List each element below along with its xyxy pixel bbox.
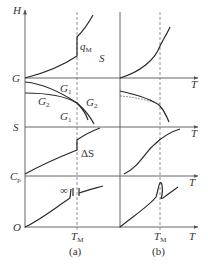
tm-label-b: TM (154, 230, 167, 244)
phase-transition-diagram: H G S Cp O qM S G1 G2 G2 G1 ΔS ∞ T T T T… (0, 0, 208, 268)
tm-label-a: TM (71, 230, 84, 244)
panel-caption-b: (b) (152, 245, 165, 258)
delta-s-label: ΔS (81, 147, 94, 159)
cp-curve-a-right (79, 186, 103, 193)
g-curve-b (120, 91, 169, 122)
g1-curve-a (25, 82, 88, 120)
cp-axis-label: Cp (10, 170, 21, 184)
s-axis-label: S (13, 121, 19, 133)
entropy-curve-b (124, 129, 180, 174)
enthalpy-curve-b (120, 27, 170, 78)
t-label-g-axis: T (191, 78, 198, 90)
panel-caption-a: (a) (69, 245, 82, 258)
g2-left-label: G2 (38, 95, 50, 109)
origin-label: O (13, 221, 21, 233)
h-axis-label: H (12, 4, 22, 16)
infinity-label: ∞ (60, 184, 68, 196)
g2-right-label: G2 (86, 96, 98, 110)
latent-heat-label: qM (80, 40, 93, 54)
g-axis-label: G (12, 72, 20, 84)
cp-lambda-curve-b (120, 183, 178, 227)
t-label-bottom-axis: T (189, 230, 196, 242)
entropy-curve-label-s: S (99, 52, 105, 64)
t-label-cp-axis: T (189, 176, 196, 188)
g1-upper-label: G1 (60, 82, 72, 96)
g1-lower-label: G1 (60, 110, 72, 124)
t-label-s-axis: T (191, 127, 198, 139)
g-tangent-dashed-b (120, 96, 160, 104)
